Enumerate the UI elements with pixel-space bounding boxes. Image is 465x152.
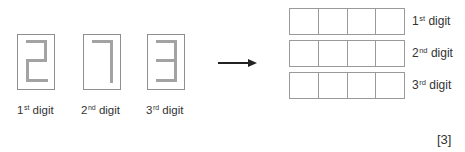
answer-cell[interactable] (376, 9, 404, 34)
label-number: 2 (412, 46, 419, 60)
answer-cell[interactable] (319, 41, 348, 66)
label-number: 3 (146, 104, 152, 116)
answer-cell[interactable] (290, 41, 319, 66)
segment-g (26, 59, 47, 62)
answer-cell[interactable] (319, 9, 348, 34)
answer-grid-row-3 (289, 72, 405, 99)
label-word: digit (162, 104, 183, 116)
label-number: 3 (412, 78, 419, 92)
seven-segment-digit-1 (17, 34, 55, 90)
segment-d (26, 79, 48, 82)
digit-label-3: 3rd digit (146, 104, 183, 116)
answer-grid-row-1 (289, 8, 405, 35)
label-ordinal-suffix: rd (153, 104, 159, 111)
grid-row-label-2: 2nd digit (412, 46, 453, 60)
arrow-right-icon (218, 62, 250, 64)
answer-cell[interactable] (348, 41, 377, 66)
label-word: digit (428, 14, 450, 28)
label-word: digit (431, 46, 453, 60)
label-word: digit (33, 104, 54, 116)
grid-row-label-1: 1st digit (412, 14, 450, 28)
answer-cell[interactable] (290, 9, 319, 34)
segment-d (156, 79, 177, 82)
segment-c (110, 59, 113, 83)
answer-cell[interactable] (376, 41, 404, 66)
answer-grid-row-2 (289, 40, 405, 67)
digit-label-1: 1st digit (17, 104, 54, 116)
label-ordinal-suffix: st (419, 14, 425, 23)
answer-cell[interactable] (376, 73, 404, 98)
label-word: digit (429, 78, 451, 92)
label-ordinal-suffix: nd (419, 46, 427, 55)
answer-cell[interactable] (348, 9, 377, 34)
digit-label-2: 2nd digit (81, 104, 120, 116)
label-ordinal-suffix: st (24, 104, 29, 111)
seven-segment-digit-3 (147, 34, 185, 90)
answer-cell[interactable] (319, 73, 348, 98)
label-number: 2 (81, 104, 87, 116)
label-number: 1 (412, 14, 419, 28)
answer-cell[interactable] (348, 73, 377, 98)
label-word: digit (99, 104, 120, 116)
label-ordinal-suffix: nd (88, 104, 96, 111)
arrowhead-icon (248, 59, 257, 67)
grid-row-label-3: 3rd digit (412, 78, 451, 92)
answer-cell[interactable] (290, 73, 319, 98)
marks-indicator: [3] (437, 132, 451, 147)
label-ordinal-suffix: rd (419, 78, 426, 87)
seven-segment-digit-2 (83, 34, 121, 90)
label-number: 1 (17, 104, 23, 116)
